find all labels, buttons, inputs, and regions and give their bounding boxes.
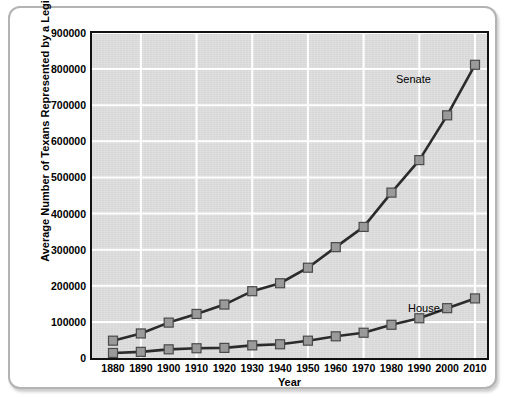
x-tick-label-1910: 1910: [185, 363, 208, 374]
x-tick-label-1900: 1900: [157, 363, 180, 374]
data-point-house-1980[interactable]: [387, 320, 396, 329]
data-point-house-1950[interactable]: [303, 336, 312, 345]
x-tick-label-1970: 1970: [352, 363, 375, 374]
data-point-house-1940[interactable]: [276, 340, 285, 349]
data-point-senate-1890[interactable]: [136, 329, 145, 338]
y-tick-label-800000: 800000: [12, 64, 86, 75]
y-tick-label-900000: 900000: [12, 28, 86, 39]
x-tick-label-2000: 2000: [435, 363, 458, 374]
data-point-house-2000[interactable]: [443, 304, 452, 313]
data-point-senate-1900[interactable]: [164, 318, 173, 327]
data-point-senate-1960[interactable]: [331, 243, 340, 252]
data-point-senate-1880[interactable]: [109, 336, 118, 345]
y-tick-label-200000: 200000: [12, 281, 86, 292]
data-point-senate-1990[interactable]: [415, 156, 424, 165]
data-point-senate-1970[interactable]: [359, 222, 368, 231]
data-point-senate-1930[interactable]: [248, 287, 257, 296]
y-tick-label-500000: 500000: [12, 172, 86, 183]
data-point-house-1880[interactable]: [109, 348, 118, 357]
y-tick-label-300000: 300000: [12, 244, 86, 255]
y-tick-label-0: 0: [12, 353, 86, 364]
x-axis-title: Year: [90, 376, 489, 388]
x-tick-label-1950: 1950: [296, 363, 319, 374]
data-point-house-1990[interactable]: [415, 314, 424, 323]
x-tick-label-1930: 1930: [241, 363, 264, 374]
data-point-senate-1910[interactable]: [192, 309, 201, 318]
x-tick-label-1920: 1920: [213, 363, 236, 374]
data-point-house-1890[interactable]: [136, 347, 145, 356]
data-point-house-1960[interactable]: [331, 332, 340, 341]
data-point-house-2010[interactable]: [471, 294, 480, 303]
data-point-house-1970[interactable]: [359, 328, 368, 337]
data-point-senate-2010[interactable]: [471, 60, 480, 69]
series-label-house: House: [408, 303, 440, 314]
data-point-house-1910[interactable]: [192, 344, 201, 353]
data-point-house-1900[interactable]: [164, 345, 173, 354]
x-tick-label-1880: 1880: [101, 363, 124, 374]
data-point-senate-2000[interactable]: [443, 111, 452, 120]
data-point-senate-1940[interactable]: [276, 279, 285, 288]
series-label-senate: Senate: [396, 74, 431, 85]
y-tick-label-100000: 100000: [12, 317, 86, 328]
x-tick-label-1960: 1960: [324, 363, 347, 374]
data-point-senate-1980[interactable]: [387, 188, 396, 197]
x-tick-label-1980: 1980: [380, 363, 403, 374]
x-tick-label-1890: 1890: [129, 363, 152, 374]
figure-card: Average Number of Texans Represented by …: [8, 6, 497, 389]
y-tick-label-600000: 600000: [12, 136, 86, 147]
data-point-house-1930[interactable]: [248, 341, 257, 350]
y-tick-label-700000: 700000: [12, 100, 86, 111]
data-point-senate-1950[interactable]: [303, 263, 312, 272]
data-point-house-1920[interactable]: [220, 343, 229, 352]
y-axis-tick-labels: 0100000200000300000400000500000600000700…: [10, 31, 86, 360]
x-tick-label-1940: 1940: [268, 363, 291, 374]
y-tick-label-400000: 400000: [12, 208, 86, 219]
x-tick-label-1990: 1990: [408, 363, 431, 374]
x-tick-label-2010: 2010: [463, 363, 486, 374]
data-point-senate-1920[interactable]: [220, 300, 229, 309]
